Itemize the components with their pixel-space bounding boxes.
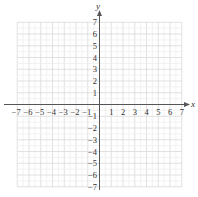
x-tick-label: −3 xyxy=(59,107,68,117)
x-tick-label: 7 xyxy=(180,107,184,117)
x-tick-label: −7 xyxy=(12,107,21,117)
x-tick-label: 6 xyxy=(168,107,172,117)
y-tick-label: 5 xyxy=(93,41,97,51)
y-tick-label: −2 xyxy=(88,123,97,133)
y-tick-label: 2 xyxy=(93,76,97,86)
x-axis-label: x xyxy=(190,99,195,109)
x-tick-labels: −7−6−5−4−3−2−11234567 xyxy=(12,107,184,117)
x-tick-label: −5 xyxy=(35,107,44,117)
x-axis-arrow-icon xyxy=(184,102,190,107)
y-tick-label: −1 xyxy=(88,111,97,121)
y-tick-label: 7 xyxy=(93,17,97,27)
y-tick-label: 1 xyxy=(93,88,97,98)
y-tick-label: −7 xyxy=(88,182,97,192)
axes: x y xyxy=(4,1,195,190)
x-tick-label: −4 xyxy=(47,107,57,117)
y-tick-label: −5 xyxy=(88,158,97,168)
y-tick-label: −4 xyxy=(88,147,98,157)
x-tick-label: −6 xyxy=(23,107,32,117)
y-tick-label: −6 xyxy=(88,170,97,180)
coordinate-grid: x y −7−6−5−4−3−2−11234567 7654321−1−2−3−… xyxy=(0,0,198,197)
x-tick-label: 4 xyxy=(144,107,149,117)
y-tick-label: −3 xyxy=(88,135,97,145)
y-tick-label: 6 xyxy=(93,29,97,39)
y-axis-label: y xyxy=(95,1,100,11)
x-tick-label: 5 xyxy=(156,107,160,117)
x-tick-label: 1 xyxy=(109,107,113,117)
y-tick-label: 3 xyxy=(93,64,97,74)
x-tick-label: −2 xyxy=(70,107,79,117)
x-tick-label: 2 xyxy=(121,107,125,117)
x-tick-label: 3 xyxy=(133,107,137,117)
